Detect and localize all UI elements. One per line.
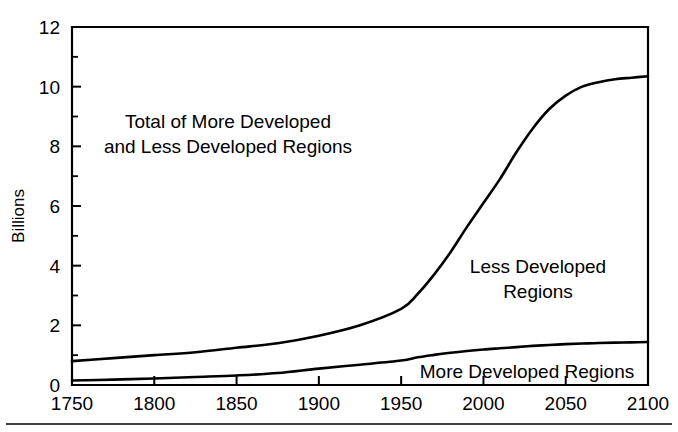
x-tick-label-1900: 1900 — [298, 393, 340, 414]
x-tick-label-1950: 1950 — [380, 393, 422, 414]
y-tick-label-12: 12 — [39, 17, 60, 38]
x-axis-tick-labels: 17501800185019001950200020502100 — [51, 393, 669, 414]
y-tick-label-10: 10 — [39, 77, 60, 98]
x-tick-label-1800: 1800 — [133, 393, 175, 414]
more-developed-label: More Developed Regions — [420, 361, 634, 382]
y-axis-title: Billions — [9, 189, 28, 243]
plot-frame — [72, 27, 648, 385]
y-axis-tick-labels: 024681012 — [39, 17, 61, 396]
x-tick-label-1750: 1750 — [51, 393, 93, 414]
y-tick-label-8: 8 — [49, 136, 60, 157]
population-projection-figure: 024681012 175018001850190019502000205021… — [0, 0, 678, 432]
x-tick-label-2100: 2100 — [627, 393, 669, 414]
y-axis-ticks — [72, 27, 81, 385]
less-developed-label: Less DevelopedRegions — [470, 256, 606, 302]
x-tick-label-1850: 1850 — [215, 393, 257, 414]
y-tick-label-4: 4 — [49, 256, 60, 277]
chart-annotations: Total of More Developedand Less Develope… — [104, 111, 634, 382]
y-tick-label-2: 2 — [49, 315, 60, 336]
total-label: Total of More Developedand Less Develope… — [104, 111, 352, 157]
x-tick-label-2050: 2050 — [545, 393, 587, 414]
x-tick-label-2000: 2000 — [462, 393, 504, 414]
y-tick-label-6: 6 — [49, 196, 60, 217]
line-chart: 024681012 175018001850190019502000205021… — [0, 0, 678, 432]
